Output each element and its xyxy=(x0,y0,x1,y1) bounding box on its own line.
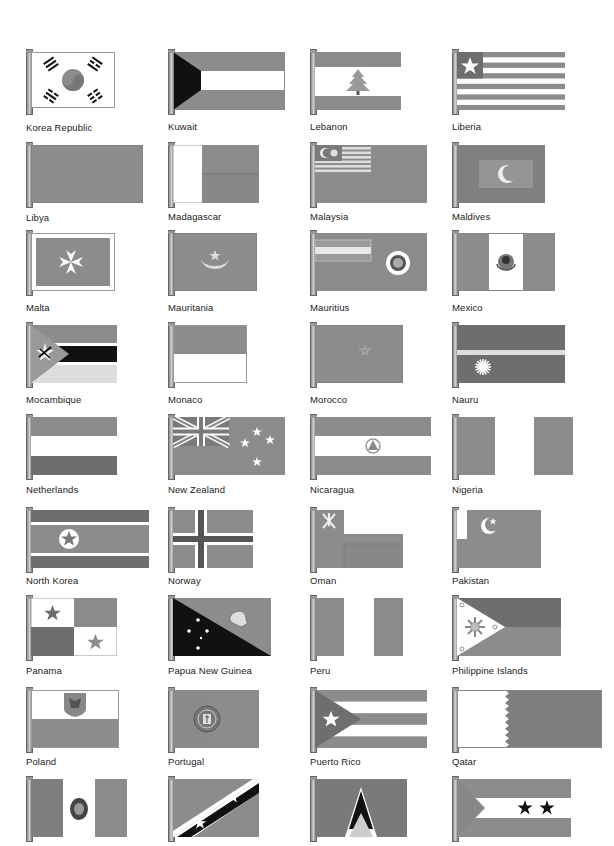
flag-card-korea-republic: Korea Republic xyxy=(26,47,166,137)
flag-label: Poland xyxy=(26,756,56,767)
liberia-flag xyxy=(457,52,565,110)
flag-label: Oman xyxy=(310,575,336,586)
flag-card-monaco: Monaco xyxy=(168,320,308,410)
korea-republic-flag xyxy=(31,52,115,108)
flag-label: Papua New Guinea xyxy=(168,665,252,676)
flag-card-nauru: Nauru xyxy=(452,320,592,410)
papua-new-guinea-flag xyxy=(173,598,271,656)
flag-label: Morocco xyxy=(310,394,347,405)
flag-label: Kuwait xyxy=(168,121,197,132)
flag-card-qatar: Qatar xyxy=(452,685,612,775)
new-zealand-flag xyxy=(173,417,285,475)
flag-card-row9-3 xyxy=(310,774,450,846)
flag-label: New Zealand xyxy=(168,484,225,495)
flag-label: Mauritius xyxy=(310,302,349,313)
madagascar-flag xyxy=(173,145,259,203)
flag-label: Madagascar xyxy=(168,211,221,222)
flag-card-liberia: Liberia xyxy=(452,47,592,137)
romania-flag xyxy=(31,779,127,837)
maldives-flag xyxy=(457,145,545,203)
flag-card-philippine-islands: Philippine Islands xyxy=(452,593,592,683)
flag-card-maldives: Maldives xyxy=(452,140,592,230)
flag-card-peru: Peru xyxy=(310,593,450,683)
flag-card-morocco: Morocco xyxy=(310,320,450,410)
flag-label: Mexico xyxy=(452,302,483,313)
flag-card-mauritania: Mauritania xyxy=(168,228,308,318)
flag-label: Portugal xyxy=(168,756,204,767)
mauritania-flag xyxy=(173,233,257,291)
sao-tome-principe-flag xyxy=(457,779,571,837)
flag-label: Netherlands xyxy=(26,484,78,495)
flag-label: Lebanon xyxy=(310,121,348,132)
puerto-rico-flag xyxy=(315,690,427,748)
flag-card-row9-2 xyxy=(168,774,308,846)
flag-card-mexico: Mexico xyxy=(452,228,592,318)
pakistan-flag xyxy=(457,510,541,568)
mocambique-flag xyxy=(31,325,117,383)
flag-label: Mauritania xyxy=(168,302,213,313)
st-kitts-nevis-flag xyxy=(173,779,259,837)
flag-label: Mocambique xyxy=(26,394,81,405)
libya-flag xyxy=(31,145,143,203)
flag-card-nigeria: Nigeria xyxy=(452,412,592,502)
flag-card-norway: Norway xyxy=(168,505,308,595)
flag-card-puerto-rico: Puerto Rico xyxy=(310,685,450,775)
flag-label: North Korea xyxy=(26,575,78,586)
flag-card-malaysia: Malaysia xyxy=(310,140,450,230)
oman-flag xyxy=(315,510,403,568)
monaco-flag xyxy=(173,325,247,383)
flag-label: Qatar xyxy=(452,756,476,767)
lebanon-flag xyxy=(315,52,401,110)
panama-flag xyxy=(31,598,117,656)
flag-label: Liberia xyxy=(452,121,481,132)
flag-card-portugal: Portugal xyxy=(168,685,308,775)
morocco-flag xyxy=(315,325,403,383)
nauru-flag xyxy=(457,325,565,383)
flag-label: Puerto Rico xyxy=(310,756,361,767)
mexico-flag xyxy=(457,233,555,291)
qatar-flag xyxy=(457,690,602,748)
flag-card-new-zealand: New Zealand xyxy=(168,412,308,502)
flag-label: Nigeria xyxy=(452,484,483,495)
flag-label: Peru xyxy=(310,665,330,676)
flag-card-kuwait: Kuwait xyxy=(168,47,308,137)
flag-label: Libya xyxy=(26,212,49,223)
flag-card-north-korea: North Korea xyxy=(26,505,166,595)
flag-label: Pakistan xyxy=(452,575,489,586)
flag-card-panama: Panama xyxy=(26,593,166,683)
flag-card-lebanon: Lebanon xyxy=(310,47,450,137)
flag-card-netherlands: Netherlands xyxy=(26,412,166,502)
flag-card-nicaragua: Nicaragua xyxy=(310,412,450,502)
flag-card-row9-1 xyxy=(26,774,166,846)
flag-card-row9-4 xyxy=(452,774,612,846)
malta-flag xyxy=(31,233,115,291)
kuwait-flag xyxy=(173,52,285,110)
peru-flag xyxy=(315,598,403,656)
flag-card-libya: Libya xyxy=(26,140,166,230)
flag-label: Nauru xyxy=(452,394,478,405)
flag-label: Norway xyxy=(168,575,201,586)
portugal-flag xyxy=(173,690,259,748)
malaysia-flag xyxy=(315,145,427,203)
flag-card-pakistan: Pakistan xyxy=(452,505,592,595)
norway-flag xyxy=(173,510,253,568)
mauritius-flag xyxy=(315,233,427,291)
flag-card-papua-new-guinea: Papua New Guinea xyxy=(168,593,308,683)
st-lucia-flag xyxy=(315,779,407,837)
philippine-islands-flag xyxy=(457,598,561,656)
flag-card-poland: Poland xyxy=(26,685,166,775)
flag-label: Monaco xyxy=(168,394,202,405)
flag-label: Panama xyxy=(26,665,62,676)
flag-label: Nicaragua xyxy=(310,484,354,495)
flag-label: Maldives xyxy=(452,211,490,222)
poland-flag xyxy=(31,690,119,748)
flag-card-mauritius: Mauritius xyxy=(310,228,450,318)
flag-label: Malaysia xyxy=(310,211,348,222)
flag-label: Philippine Islands xyxy=(452,665,528,676)
netherlands-flag xyxy=(31,417,117,475)
flag-card-madagascar: Madagascar xyxy=(168,140,308,230)
nigeria-flag xyxy=(457,417,573,475)
flag-label: Malta xyxy=(26,302,50,313)
nicaragua-flag xyxy=(315,417,431,475)
flag-card-malta: Malta xyxy=(26,228,166,318)
